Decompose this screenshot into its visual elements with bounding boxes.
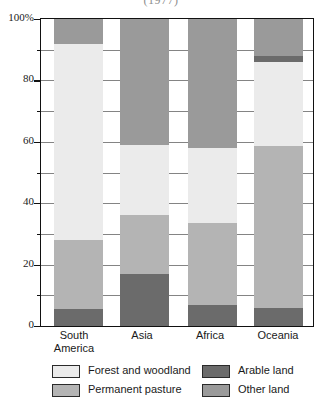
bar-africa[interactable]: [188, 19, 237, 326]
bar-segment[interactable]: [120, 274, 169, 326]
legend-swatch-permanent-pasture: [52, 384, 80, 397]
x-axis-label: Africa: [176, 329, 244, 342]
bar-oceania[interactable]: [254, 19, 303, 326]
y-axis-label: 100%: [0, 11, 34, 23]
bar-segment[interactable]: [120, 19, 169, 145]
bar-segment[interactable]: [54, 44, 103, 240]
plot-area: [40, 18, 314, 327]
legend-swatch-other-land: [202, 384, 230, 397]
bar-segment[interactable]: [254, 62, 303, 146]
x-axis-label: South America: [40, 329, 108, 354]
bar-segment[interactable]: [54, 19, 103, 44]
y-axis-label: 40: [0, 195, 34, 207]
y-axis-label: 80: [0, 72, 34, 84]
y-axis-tick-major: [34, 326, 41, 327]
bar-segment[interactable]: [54, 309, 103, 326]
bar-asia[interactable]: [120, 19, 169, 326]
legend-label: Forest and woodland: [88, 364, 191, 376]
y-axis-tick-minor: [37, 111, 41, 112]
bar-segment-band[interactable]: [254, 56, 303, 62]
bar-segment[interactable]: [188, 305, 237, 326]
legend-label: Other land: [238, 383, 289, 395]
legend-swatch-arable-land: [202, 365, 230, 378]
y-axis-tick-minor: [37, 234, 41, 235]
bar-segment[interactable]: [188, 148, 237, 223]
chart-legend: Forest and woodlandPermanent pastureArab…: [52, 364, 314, 404]
legend-label: Permanent pasture: [88, 383, 182, 395]
legend-swatch-forest-and-woodland: [52, 365, 80, 378]
chart-figure: (1977) South AmericaAsiaAfricaOceania 10…: [0, 0, 322, 408]
y-axis-tick-major: [34, 203, 41, 204]
bar-segment[interactable]: [254, 308, 303, 326]
chart-title: (1977): [0, 0, 322, 8]
bar-segment[interactable]: [120, 215, 169, 273]
y-axis-label: 0: [0, 318, 34, 330]
bar-segment[interactable]: [120, 145, 169, 216]
bar-south-america[interactable]: [54, 19, 103, 326]
y-axis-label: 20: [0, 257, 34, 269]
y-axis-tick-minor: [37, 173, 41, 174]
bar-segment[interactable]: [188, 223, 237, 304]
bar-segment[interactable]: [254, 146, 303, 307]
bar-segment[interactable]: [54, 240, 103, 309]
y-axis-tick-major: [34, 142, 41, 143]
y-axis-tick-minor: [37, 50, 41, 51]
y-axis-label: 60: [0, 134, 34, 146]
y-axis-tick-major: [34, 265, 41, 266]
bar-segment[interactable]: [188, 19, 237, 148]
y-axis-tick-major: [34, 19, 41, 20]
x-axis-label: Oceania: [244, 329, 312, 342]
legend-label: Arable land: [238, 364, 294, 376]
y-axis-tick-minor: [37, 295, 41, 296]
x-axis-label: Asia: [108, 329, 176, 342]
y-axis-tick-major: [34, 80, 41, 81]
